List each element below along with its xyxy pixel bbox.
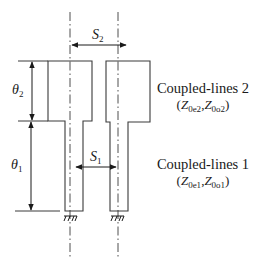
s1-symbol: S (90, 149, 97, 164)
z-even-symbol: Z (181, 97, 188, 112)
theta1-subscript: 1 (18, 164, 23, 174)
theta2-subscript: 2 (19, 89, 24, 99)
s2-label: S2 (92, 28, 104, 44)
theta1-label: θ1 (11, 158, 22, 174)
s1-subscript: 1 (97, 156, 102, 166)
z-even-symbol: Z (181, 173, 188, 188)
z-odd-symbol: Z (204, 97, 211, 112)
theta2-label: θ2 (12, 83, 23, 99)
coupled-lines-2-title: Coupled-lines 2 (157, 81, 249, 96)
theta2-symbol: θ (12, 82, 19, 97)
z-odd-symbol: Z (204, 173, 211, 188)
z-odd-subscript: 0o1 (212, 180, 226, 190)
coupled-lines-2-impedance: (Z0e2,Z0o2) (177, 98, 230, 114)
s1-label: S1 (90, 150, 102, 166)
paren-close: ) (225, 173, 229, 188)
s2-subscript: 2 (99, 34, 104, 44)
coupled-lines-1-title: Coupled-lines 1 (157, 157, 249, 172)
theta1-symbol: θ (11, 157, 18, 172)
z-even-subscript: 0e1 (188, 180, 201, 190)
right-ground-icon (111, 216, 124, 221)
left-ground-icon (64, 216, 77, 221)
s2-symbol: S (92, 27, 99, 42)
z-odd-subscript: 0o2 (212, 104, 226, 114)
coupled-lines-diagram: S2 S1 θ2 θ1 Coupled-lines 2 (Z0e2,Z0o2) … (0, 0, 254, 260)
z-even-subscript: 0e2 (188, 104, 201, 114)
paren-close: ) (225, 97, 229, 112)
right-line-outline (106, 61, 150, 211)
diagram-drawing (0, 0, 254, 260)
coupled-lines-1-impedance: (Z0e1,Z0o1) (177, 174, 230, 190)
